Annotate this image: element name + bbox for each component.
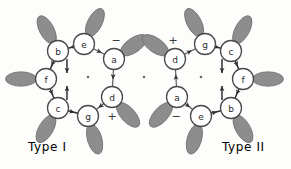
orbital-lobe-type-I-f — [6, 72, 37, 86]
node-label-b: b — [228, 104, 234, 114]
node-label-c: c — [56, 104, 61, 114]
node-label-c: c — [229, 47, 234, 57]
caption-type-ii: Type II — [222, 140, 265, 154]
orbital-node-type-II-c[interactable]: c — [221, 41, 242, 62]
ring-center-dot-type-I — [87, 76, 90, 79]
orbital-node-type-II-b[interactable]: b — [221, 98, 242, 119]
orbital-node-type-I-b[interactable]: b — [48, 41, 69, 62]
ring-center-dot-type-II — [200, 76, 203, 79]
node-label-d: d — [172, 55, 178, 65]
phase-sign-type-I-e: − — [111, 34, 120, 47]
node-label-b: b — [55, 47, 61, 57]
caption-type-i: Type I — [28, 140, 67, 154]
node-label-g: g — [85, 112, 91, 122]
node-label-a: a — [174, 93, 180, 103]
orbital-node-type-I-g[interactable]: g — [78, 106, 99, 127]
phase-sign-type-II-e: − — [171, 110, 180, 123]
orbital-lobe-type-II-f — [253, 72, 284, 86]
orbital-node-type-II-e[interactable]: e — [191, 106, 212, 127]
phase-sign-type-I-g: + — [107, 110, 116, 123]
orbital-node-type-II-f[interactable]: f — [233, 69, 254, 90]
node-label-e: e — [81, 40, 87, 50]
node-label-a: a — [111, 55, 117, 65]
midpoint-dot-0 — [143, 76, 146, 79]
node-label-g: g — [202, 40, 208, 50]
orbital-node-type-II-a[interactable]: a — [167, 87, 188, 108]
orbital-diagram-figure: ebfcgdagcfbead −++− Type I Type II — [0, 0, 291, 169]
node-label-e: e — [198, 112, 204, 122]
orbital-node-type-I-a[interactable]: a — [104, 49, 125, 70]
phase-sign-type-II-g: + — [168, 34, 177, 47]
orbital-node-type-I-c[interactable]: c — [48, 98, 69, 119]
node-label-d: d — [109, 93, 115, 103]
orbital-node-type-I-e[interactable]: e — [74, 34, 95, 55]
orbital-node-type-II-d[interactable]: d — [165, 49, 186, 70]
orbital-node-type-II-g[interactable]: g — [195, 34, 216, 55]
orbital-node-type-I-f[interactable]: f — [36, 69, 57, 90]
orbital-node-type-I-d[interactable]: d — [102, 87, 123, 108]
